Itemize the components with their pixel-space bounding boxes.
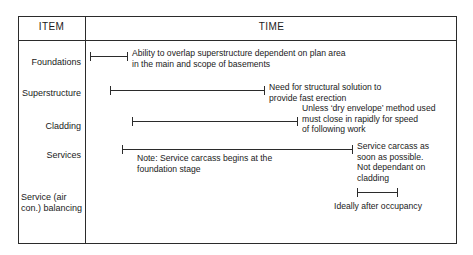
bar-superstructure [110,86,265,95]
annotation-cladding: Unless ‘dry envelope’ method used must c… [302,103,435,135]
row-label-cladding: Cladding [45,121,81,132]
row-label-foundations: Foundations [31,57,81,68]
bar-foundations [90,52,128,61]
row-label-services: Services [46,150,81,161]
bar-service-balancing [357,188,398,197]
bar-cladding [132,117,298,126]
column-divider [85,16,86,244]
header-divider [18,40,457,41]
row-label-service-balancing: Service (air con.) balancing [21,192,83,214]
note-services-carcass: Note: Service carcass begins at the foun… [137,153,272,174]
annotation-services: Service carcass as soon as possible. Not… [357,141,429,183]
annotation-superstructure: Need for structural solution to provide … [269,82,381,103]
annotation-foundations: Ability to overlap superstructure depend… [132,48,346,69]
column-header-item: ITEM [18,21,85,32]
gantt-chart-figure: ITEM TIME Foundations Ability to overlap… [0,0,473,255]
row-label-superstructure: Superstructure [22,88,81,99]
column-header-time: TIME [86,21,457,32]
annotation-service-balancing: Ideally after occupancy [333,201,423,212]
